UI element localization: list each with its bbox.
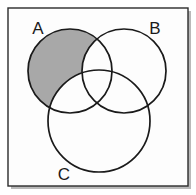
venn-diagram-figure: A B C <box>0 0 196 195</box>
venn-diagram-canvas: A B C <box>0 0 196 195</box>
shaded-region-a-only <box>0 0 196 195</box>
label-b: B <box>149 19 160 38</box>
label-a: A <box>32 19 44 38</box>
label-c: C <box>58 165 70 184</box>
